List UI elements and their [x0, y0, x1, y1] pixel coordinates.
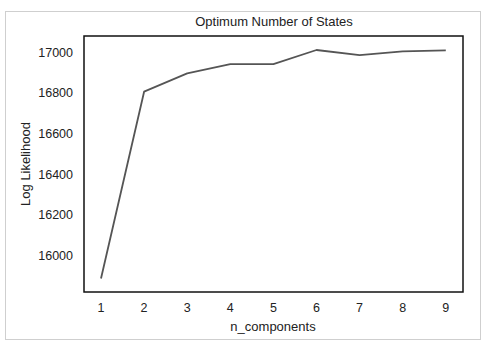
- series-line-log-likelihood: [101, 50, 446, 279]
- x-tick-label: 3: [184, 301, 191, 315]
- x-tick-label: 4: [227, 301, 234, 315]
- y-tick-label: 16600: [38, 127, 73, 141]
- x-tick-label: 9: [442, 301, 449, 315]
- y-tick-label: 16200: [38, 208, 73, 222]
- x-tick-label: 2: [141, 301, 148, 315]
- y-axis-label: Log Likelihood: [18, 122, 33, 206]
- x-tick-label: 8: [399, 301, 406, 315]
- y-tick-label: 16400: [38, 168, 73, 182]
- line-chart: 160001620016400166001680017000 123456789…: [0, 0, 489, 350]
- x-axis-ticks: 123456789: [98, 301, 450, 315]
- y-tick-label: 16000: [38, 249, 73, 263]
- x-tick-label: 7: [356, 301, 363, 315]
- x-tick-label: 5: [270, 301, 277, 315]
- x-axis-label: n_components: [230, 319, 316, 334]
- x-tick-label: 1: [98, 301, 105, 315]
- y-tick-label: 17000: [38, 46, 73, 60]
- y-tick-label: 16800: [38, 86, 73, 100]
- plot-area: [84, 36, 463, 292]
- y-axis-ticks: 160001620016400166001680017000: [38, 46, 73, 264]
- x-tick-label: 6: [313, 301, 320, 315]
